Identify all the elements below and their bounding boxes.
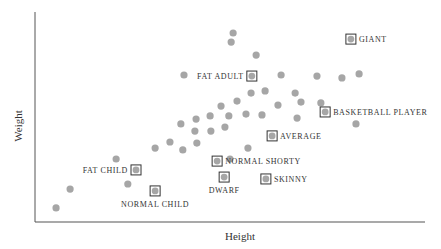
- data-point: [297, 98, 304, 105]
- point-label: SKINNY: [274, 175, 308, 184]
- data-point: [230, 29, 237, 36]
- data-point: [177, 120, 184, 127]
- labelled-point: FAT ADULT: [197, 71, 257, 81]
- data-point: [191, 127, 198, 134]
- data-point: [262, 176, 269, 183]
- data-point: [179, 146, 186, 153]
- data-point: [293, 114, 300, 121]
- data-point: [225, 112, 232, 119]
- y-axis-label-wrap: Weight: [3, 96, 33, 156]
- data-point: [180, 71, 187, 78]
- data-point: [253, 51, 260, 58]
- data-point: [322, 109, 329, 116]
- labelled-point: FAT CHILD: [83, 165, 141, 175]
- data-point: [217, 102, 224, 109]
- data-point: [313, 72, 320, 79]
- data-point: [233, 97, 240, 104]
- data-point: [52, 204, 59, 211]
- data-point: [248, 73, 255, 80]
- point-label: AVERAGE: [280, 132, 321, 141]
- point-label: NORMAL CHILD: [121, 200, 189, 209]
- labelled-point: GIANT: [346, 34, 387, 44]
- labelled-points: GIANTFAT ADULTBASKETBALL PLAYERAVERAGENO…: [83, 34, 428, 209]
- data-point: [352, 120, 359, 127]
- point-label: FAT CHILD: [83, 166, 128, 175]
- data-point: [247, 89, 254, 96]
- data-point: [67, 185, 74, 192]
- data-point: [317, 99, 324, 106]
- point-label: GIANT: [359, 35, 387, 44]
- data-point: [152, 188, 159, 195]
- labelled-point: NORMAL CHILD: [121, 186, 189, 209]
- point-label: DWARF: [209, 186, 240, 195]
- labelled-point: NORMAL SHORTY: [212, 156, 301, 166]
- scatter-chart: GIANTFAT ADULTBASKETBALL PLAYERAVERAGENO…: [0, 0, 441, 249]
- point-label: NORMAL SHORTY: [225, 157, 301, 166]
- labelled-point: AVERAGE: [267, 131, 321, 141]
- data-point: [124, 180, 131, 187]
- labelled-point: DWARF: [209, 172, 240, 195]
- data-point: [214, 158, 221, 165]
- data-point: [258, 111, 265, 118]
- data-point: [292, 89, 299, 96]
- data-point: [133, 167, 140, 174]
- data-point: [192, 116, 199, 123]
- labelled-point: SKINNY: [261, 174, 308, 184]
- data-point: [355, 70, 362, 77]
- y-axis-label: Weight: [12, 110, 24, 142]
- data-point: [207, 112, 214, 119]
- data-point: [242, 110, 249, 117]
- point-label: BASKETBALL PLAYER: [333, 108, 427, 117]
- data-point: [221, 123, 228, 130]
- point-label: FAT ADULT: [197, 72, 244, 81]
- x-axis-label: Height: [205, 230, 275, 242]
- plot-canvas: GIANTFAT ADULTBASKETBALL PLAYERAVERAGENO…: [0, 0, 441, 249]
- data-point: [152, 144, 159, 151]
- data-point: [244, 144, 251, 151]
- data-point: [113, 155, 120, 162]
- data-point: [207, 127, 214, 134]
- data-point: [262, 87, 269, 94]
- data-points: [52, 29, 362, 211]
- data-point: [274, 101, 281, 108]
- data-point: [338, 74, 345, 81]
- data-point: [277, 71, 284, 78]
- data-point: [166, 138, 173, 145]
- data-point: [221, 174, 228, 181]
- labelled-point: BASKETBALL PLAYER: [320, 107, 427, 117]
- data-point: [269, 133, 276, 140]
- data-point: [193, 139, 200, 146]
- data-point: [348, 36, 355, 43]
- data-point: [228, 38, 235, 45]
